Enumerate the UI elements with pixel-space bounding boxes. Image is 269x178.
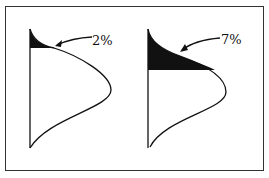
right-arrow [182, 38, 220, 50]
left-arrowhead-icon [55, 40, 62, 47]
right-arrowhead-icon [180, 44, 188, 52]
right-shaded-tail [148, 29, 215, 70]
distribution-diagram: 2% 7% [0, 0, 269, 178]
left-shaded-tail [30, 29, 54, 48]
right-distribution: 7% [148, 29, 242, 148]
left-arrow [57, 37, 92, 45]
right-percent-label: 7% [221, 32, 242, 47]
left-percent-label: 2% [92, 33, 113, 48]
left-distribution: 2% [30, 29, 113, 148]
